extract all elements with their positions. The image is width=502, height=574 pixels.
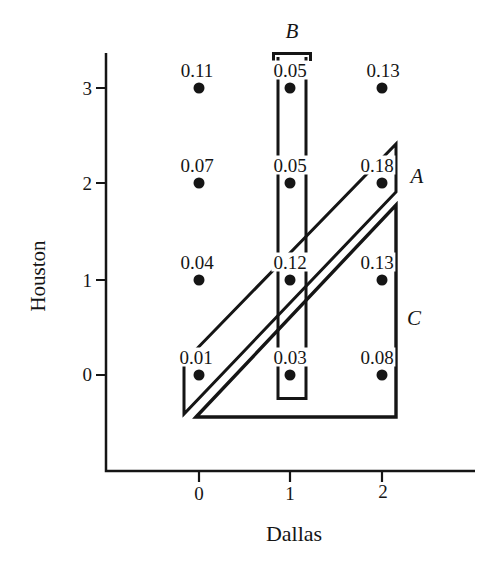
region-b-label: B (286, 21, 299, 42)
y-tick-label-2: 2 (83, 174, 93, 193)
data-dot (377, 275, 388, 286)
x-tick-label-0: 0 (194, 484, 204, 503)
region-c-label: C (407, 308, 421, 329)
pmf-label-d2-h1: 0.13 (358, 253, 395, 272)
data-dot (377, 178, 388, 189)
x-tick-label-2: 2 (378, 482, 388, 501)
x-axis-ticks (199, 471, 382, 482)
data-dot (194, 83, 205, 94)
pmf-label-d1-h0: 0.03 (271, 348, 308, 367)
pmf-label-d2-h0: 0.08 (358, 348, 395, 367)
data-dot (194, 275, 205, 286)
region-a-label: A (411, 166, 424, 187)
data-dot (285, 275, 296, 286)
region-c-outline (196, 205, 396, 417)
pmf-label-d2-h2: 0.18 (358, 156, 395, 175)
y-tick-label-3: 3 (83, 79, 93, 98)
x-axis-title: Dallas (266, 523, 322, 545)
pmf-label-d0-h3: 0.11 (179, 61, 216, 80)
pmf-label-d0-h0: 0.01 (177, 348, 214, 367)
y-axis-ticks (96, 88, 106, 375)
data-dot (194, 178, 205, 189)
plot-canvas (0, 0, 502, 574)
y-tick-label-1: 1 (83, 271, 93, 290)
data-dot (285, 370, 296, 381)
joint-pmf-figure: 0.11 0.05 0.13 0.07 0.05 0.18 0.04 0.12 … (0, 0, 502, 574)
pmf-label-d2-h3: 0.13 (364, 61, 401, 80)
pmf-label-d0-h2: 0.07 (178, 156, 215, 175)
y-tick-label-0: 0 (83, 365, 93, 384)
pmf-label-d1-h2: 0.05 (271, 156, 308, 175)
pmf-label-d1-h3: 0.05 (271, 61, 308, 80)
data-dot (377, 370, 388, 381)
data-dot (285, 178, 296, 189)
data-dot (194, 370, 205, 381)
pmf-label-d1-h1: 0.12 (271, 253, 308, 272)
data-dot (285, 83, 296, 94)
y-axis-title: Houston (28, 240, 49, 311)
x-tick-label-1: 1 (285, 484, 295, 503)
data-dot (377, 83, 388, 94)
pmf-label-d0-h1: 0.04 (178, 253, 215, 272)
